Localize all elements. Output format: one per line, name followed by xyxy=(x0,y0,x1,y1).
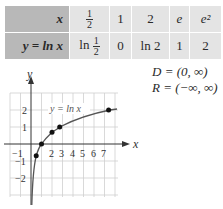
svg-text:3: 3 xyxy=(59,148,64,159)
svg-text:4: 4 xyxy=(70,148,75,159)
svg-text:2: 2 xyxy=(49,148,54,159)
svg-text:2: 2 xyxy=(22,105,27,116)
svg-text:1: 1 xyxy=(22,122,27,133)
svg-text:−2: −2 xyxy=(15,173,26,184)
svg-text:x: x xyxy=(132,137,139,151)
svg-text:y: y xyxy=(26,67,33,81)
x-axis-arrow-icon xyxy=(122,141,130,147)
axes xyxy=(4,80,126,205)
svg-text:7: 7 xyxy=(101,148,106,159)
svg-text:6: 6 xyxy=(91,148,96,159)
ln-graph: x y −1 234 567 21 −1−2 y = ln x xyxy=(0,0,223,209)
curve-label: y = ln x xyxy=(49,103,81,114)
svg-text:−1: −1 xyxy=(15,156,26,167)
svg-text:5: 5 xyxy=(80,148,85,159)
